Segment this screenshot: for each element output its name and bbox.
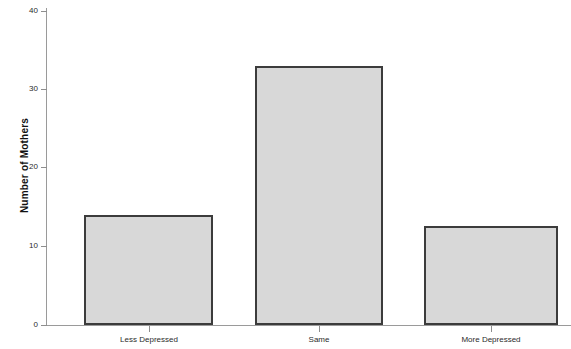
- y-tick-mark-30: [41, 89, 47, 90]
- x-tick-label-more-depressed: More Depressed: [461, 334, 520, 346]
- y-tick-mark-20: [41, 167, 47, 168]
- x-axis-line: [46, 325, 571, 326]
- y-tick-label-20: 20: [16, 162, 38, 172]
- y-axis-title: Number of Mothers: [16, 0, 32, 349]
- y-tick-label-10: 10: [16, 241, 38, 251]
- x-tick-label-less-depressed: Less Depressed: [120, 334, 178, 346]
- y-tick-label-30: 30: [16, 84, 38, 94]
- y-tick-mark-40: [41, 11, 47, 12]
- y-tick-mark-10: [41, 246, 47, 247]
- x-tick-label-same: Same: [309, 334, 330, 346]
- x-tick-mark-less-depressed: [149, 326, 150, 332]
- bar-same[interactable]: [255, 66, 383, 325]
- bar-chart: Number of Mothers 40 30 20 10 0 Less Dep…: [0, 0, 571, 349]
- y-tick-label-0: 0: [16, 320, 38, 330]
- x-tick-mark-same: [319, 326, 320, 332]
- bar-more-depressed[interactable]: [424, 226, 558, 325]
- bar-less-depressed[interactable]: [84, 215, 213, 325]
- y-tick-label-40: 40: [16, 6, 38, 16]
- x-tick-mark-more-depressed: [491, 326, 492, 332]
- y-tick-mark-0: [41, 325, 47, 326]
